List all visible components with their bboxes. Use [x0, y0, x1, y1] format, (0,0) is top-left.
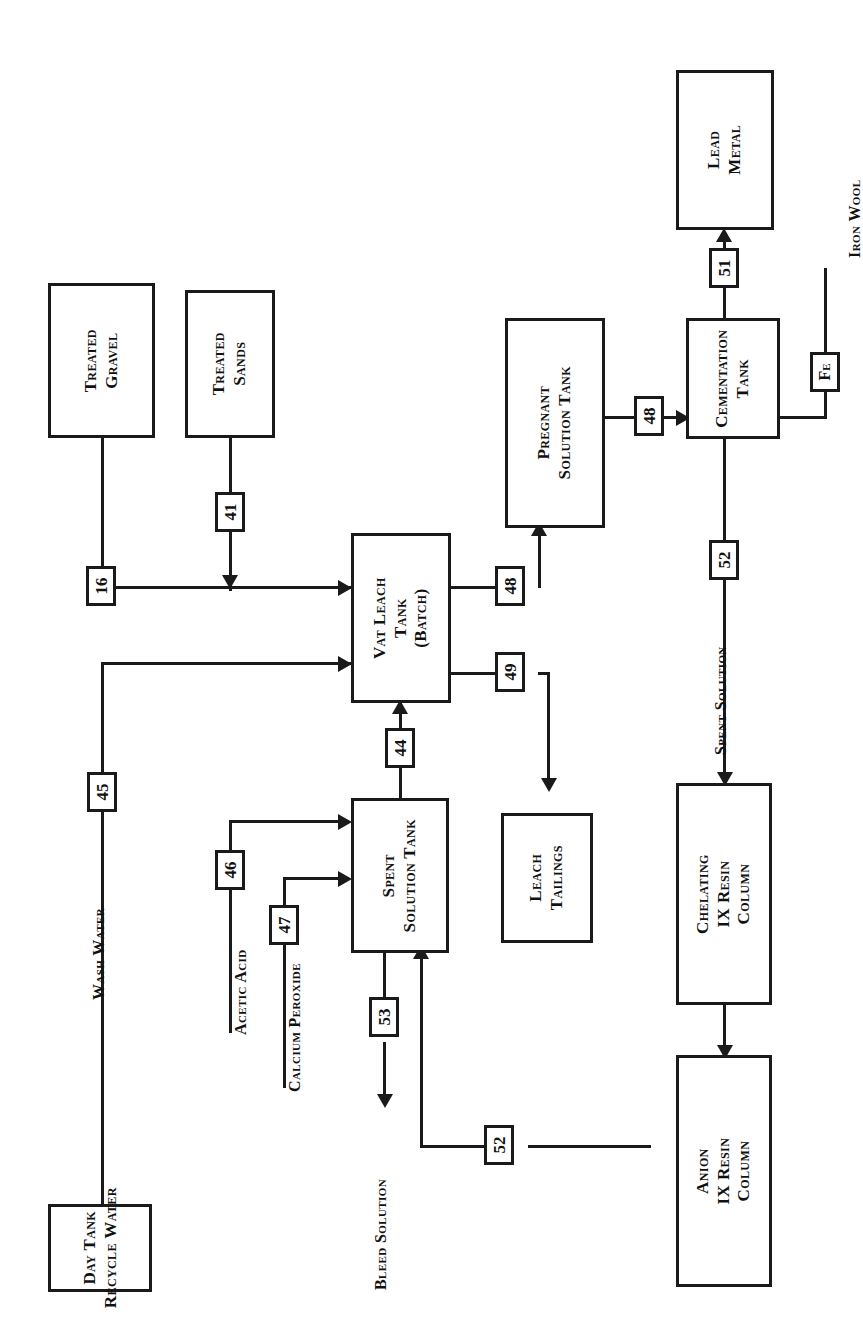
stream-tag-fe-value: Fe: [816, 363, 834, 380]
box-label-vat-leach-tank: Vat Leach Tank (Batch): [370, 577, 432, 659]
box-spent-solution-tank[interactable]: Spent Solution Tank: [351, 798, 449, 953]
stream-tag-52-cementation[interactable]: 52: [709, 540, 739, 580]
arrowhead-45-into-vat: [338, 656, 352, 672]
stream-tag-48-leach-outlet[interactable]: 48: [495, 566, 525, 606]
line-49-down-to-tailings: [547, 672, 550, 784]
stream-tag-52-cementation-value: 52: [714, 552, 734, 569]
line-anion-to-52: [528, 1145, 651, 1148]
process-flow-diagram: Treated Gravel Treated Sands Vat Leach T…: [0, 0, 863, 1339]
stream-tag-44-value: 44: [390, 740, 410, 757]
stream-tag-53[interactable]: 53: [369, 997, 399, 1037]
line-52-up-to-spent: [420, 952, 423, 1148]
line-47-up: [283, 877, 286, 905]
arrowhead-51-into-lead: [716, 228, 732, 242]
line-46-to-spent: [229, 820, 349, 823]
flow-label-iron-wool: Iron Wool: [846, 180, 863, 258]
box-vat-leach-tank[interactable]: Vat Leach Tank (Batch): [351, 533, 451, 703]
arrowhead-bleed-solution: [377, 1094, 393, 1108]
box-label-treated-sands: Treated Sands: [209, 332, 250, 395]
stream-tag-44[interactable]: 44: [385, 728, 415, 768]
stream-tag-41-value: 41: [220, 504, 240, 521]
box-pregnant-solution-tank[interactable]: Pregnant Solution Tank: [505, 318, 605, 528]
box-lead-metal[interactable]: Lead Metal: [676, 70, 774, 230]
stream-tag-49-value: 49: [500, 664, 520, 681]
arrowhead-41-into-stream: [222, 575, 238, 589]
box-label-lead-metal: Lead Metal: [704, 125, 745, 175]
flow-label-acetic-acid: Acetic Acid: [232, 949, 250, 1035]
line-spent-to-53: [383, 952, 386, 998]
box-label-cementation-tank: Cementation Tank: [712, 329, 753, 427]
box-treated-gravel[interactable]: Treated Gravel: [48, 283, 155, 438]
stream-tag-16[interactable]: 16: [86, 566, 116, 606]
box-label-spent-solution-tank: Spent Solution Tank: [379, 819, 420, 932]
arrowhead-49-into-tailings: [541, 778, 557, 792]
stream-tag-16-value: 16: [91, 578, 111, 595]
stream-tag-48-pregnant-value: 48: [639, 408, 659, 425]
box-label-leach-tailings: Leach Tailings: [526, 845, 567, 910]
line-fe-down: [824, 392, 827, 416]
arrowhead-47-into-spent: [338, 871, 352, 887]
flow-label-wash-water: Wash Water: [90, 908, 108, 1000]
line-48-up-to-pregnant: [538, 528, 541, 588]
line-ironwool-down: [824, 268, 827, 353]
stream-tag-fe[interactable]: Fe: [810, 352, 840, 392]
stream-tag-47[interactable]: 47: [269, 905, 299, 945]
stream-tag-45-value: 45: [92, 784, 112, 801]
box-day-tank-recycle-water[interactable]: Day Tank Recycle Water: [48, 1204, 152, 1292]
stream-tag-46-value: 46: [220, 862, 240, 879]
line-46-up: [229, 820, 232, 850]
box-treated-sands[interactable]: Treated Sands: [185, 290, 275, 438]
box-label-anion-ix-resin-column: Anion IX Resin Column: [693, 1138, 755, 1205]
stream-tag-49[interactable]: 49: [495, 652, 525, 692]
stream-tag-53-value: 53: [374, 1009, 394, 1026]
stream-tag-51-value: 51: [714, 260, 734, 277]
arrowhead-16-into-vat: [338, 580, 352, 596]
stream-tag-47-value: 47: [274, 917, 294, 934]
flow-label-spent-solution: Spent Solution: [712, 646, 730, 755]
box-cementation-tank[interactable]: Cementation Tank: [686, 318, 780, 439]
stream-tag-48-leach-value: 48: [500, 578, 520, 595]
stream-tag-48-pregnant-outlet[interactable]: 48: [634, 396, 664, 436]
box-anion-ix-resin-column[interactable]: Anion IX Resin Column: [676, 1055, 772, 1287]
arrowhead-46-into-spent: [338, 814, 352, 830]
flow-label-bleed-solution: Bleed Solution: [372, 1179, 390, 1290]
stream-tag-51[interactable]: 51: [709, 248, 739, 288]
line-53-down: [383, 1042, 386, 1102]
stream-tag-46[interactable]: 46: [215, 850, 245, 890]
box-label-day-tank-recycle-water: Day Tank Recycle Water: [79, 1188, 120, 1309]
stream-tag-41[interactable]: 41: [215, 492, 245, 532]
line-pregnant-to-48: [604, 416, 638, 419]
flow-label-calcium-peroxide: Calcium Peroxide: [286, 963, 304, 1092]
box-label-chelating-ix-resin-column: Chelating IX Resin Column: [693, 854, 755, 934]
box-chelating-ix-resin-column[interactable]: Chelating IX Resin Column: [676, 783, 772, 1005]
stream-tag-52-anion-value: 52: [489, 1137, 509, 1154]
stream-tag-52-anion[interactable]: 52: [484, 1125, 514, 1165]
box-label-pregnant-solution-tank: Pregnant Solution Tank: [534, 366, 575, 479]
box-label-treated-gravel: Treated Gravel: [81, 329, 122, 392]
line-washwater-to-vat: [101, 662, 361, 665]
line-52-left: [420, 1145, 484, 1148]
box-leach-tailings[interactable]: Leach Tailings: [501, 813, 593, 943]
stream-tag-45[interactable]: 45: [87, 772, 117, 812]
